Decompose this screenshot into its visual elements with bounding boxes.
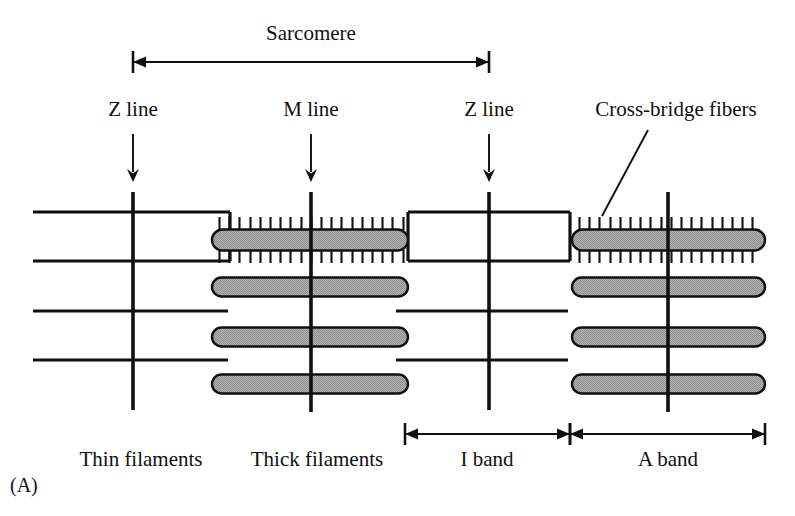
leader-line-group [602, 130, 648, 216]
arrowhead-right [752, 429, 765, 440]
sarcomere-figure: SarcomereZ lineM lineZ lineCross-bridge … [0, 0, 795, 516]
bottom-label-thick-filaments: Thick filaments [251, 447, 383, 471]
top-label-m-line: M line [283, 97, 338, 121]
bottom-label-thin-filaments: Thin filaments [79, 447, 202, 471]
top-label-z-line-left: Z line [108, 97, 158, 121]
arrowhead-left [570, 429, 583, 440]
top-label-z-line-right: Z line [464, 97, 514, 121]
panel-label: (A) [10, 474, 38, 497]
bottom-label-i-band: I band [460, 447, 514, 471]
bottom-label-a-band: A band [638, 447, 699, 471]
sarcomere-title: Sarcomere [266, 21, 356, 45]
arrowhead-left [133, 57, 146, 68]
sarcomere-diagram: SarcomereZ lineM lineZ lineCross-bridge … [0, 0, 795, 516]
arrowhead-right [476, 57, 489, 68]
arrowhead-left [405, 429, 418, 440]
arrowhead-right [557, 429, 570, 440]
top-label-cross-bridge-fibers: Cross-bridge fibers [595, 97, 757, 121]
cross-bridge-leader-line [602, 130, 648, 216]
pointer-arrow-group [127, 134, 495, 182]
